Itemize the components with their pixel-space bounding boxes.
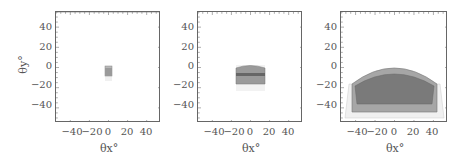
- y-tick: 40: [170, 21, 194, 32]
- y-tick: −20: [170, 79, 194, 90]
- y-tick: 20: [170, 41, 194, 52]
- y-tick: −40: [28, 99, 52, 110]
- x-axis-title: θx°: [386, 142, 404, 155]
- plot-panel-2: 40 20 0 −20 −40 −40 −20 0 20 40 θx°: [142, 0, 297, 165]
- x-axis-title: θx°: [242, 142, 260, 155]
- y-tick: −20: [313, 79, 337, 90]
- y-tick: 40: [313, 21, 337, 32]
- y-tick: 0: [170, 60, 194, 71]
- y-tick: 0: [28, 60, 52, 71]
- y-tick: −40: [313, 99, 337, 110]
- x-tick: 40: [420, 126, 444, 137]
- plot-panel-3: 40 20 0 −20 −40 −40 −20 0 20 40 θx°: [285, 0, 440, 165]
- y-tick: −20: [28, 79, 52, 90]
- plot-frame: [340, 11, 447, 122]
- y-tick: 20: [313, 41, 337, 52]
- y-tick: 20: [28, 41, 52, 52]
- y-tick: −40: [170, 99, 194, 110]
- y-tick: 40: [28, 21, 52, 32]
- x-axis-title: θx°: [100, 142, 118, 155]
- plot-panel-1: θy° 40 20 0 −20 −40 −40 −20 0 20 40 θx°: [0, 0, 155, 165]
- y-tick: 0: [313, 60, 337, 71]
